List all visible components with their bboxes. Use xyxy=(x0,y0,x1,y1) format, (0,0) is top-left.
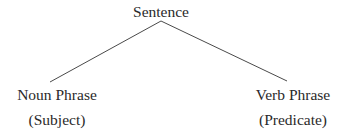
child-sublabel-predicate: (Predicate) xyxy=(243,111,343,129)
child-sublabel-subject: (Subject) xyxy=(7,111,107,129)
edge-sentence-to-noun-phrase xyxy=(50,21,161,82)
child-node-verb-phrase: Verb Phrase xyxy=(243,86,343,104)
root-node-sentence: Sentence xyxy=(121,3,201,21)
child-node-noun-phrase: Noun Phrase xyxy=(7,86,107,104)
edge-sentence-to-verb-phrase xyxy=(161,21,287,81)
